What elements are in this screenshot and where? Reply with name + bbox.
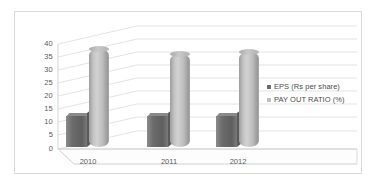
bar-front-face (216, 116, 237, 147)
legend-item-payout[interactable]: PAY OUT RATIO (%) (267, 93, 363, 106)
bar-eps-2012[interactable] (216, 116, 237, 147)
y-tick-35: 35 (33, 52, 53, 61)
bar-eps-2010[interactable] (66, 116, 87, 147)
y-tick-30: 30 (33, 65, 53, 74)
cylinder-top-cap (89, 46, 109, 52)
y-tick-5: 5 (33, 130, 53, 139)
x-tick-2012: 2012 (213, 157, 263, 166)
bar-front-face (66, 116, 87, 147)
cylinder-top-cap (239, 49, 259, 55)
legend-label-payout: PAY OUT RATIO (%) (274, 95, 345, 104)
legend-swatch-eps-icon (267, 85, 271, 89)
cylinder-top-cap (170, 51, 190, 57)
plot-area: 40 35 30 25 20 15 10 5 0 (15, 12, 363, 175)
y-tick-10: 10 (33, 117, 53, 126)
y-tick-15: 15 (33, 104, 53, 113)
cylinder-body (239, 52, 259, 147)
bar-payout-2010[interactable] (89, 49, 109, 147)
bar-eps-2011[interactable] (147, 116, 168, 147)
legend-label-eps: EPS (Rs per share) (274, 82, 340, 91)
bar-payout-2012[interactable] (239, 52, 259, 147)
cylinder-body (89, 49, 109, 147)
cylinder-body (170, 54, 190, 147)
x-tick-2011: 2011 (144, 157, 194, 166)
y-tick-20: 20 (33, 91, 53, 100)
chart-legend: EPS (Rs per share) PAY OUT RATIO (%) (267, 80, 363, 106)
y-tick-0: 0 (33, 144, 53, 153)
chart-container: 40 35 30 25 20 15 10 5 0 (14, 11, 362, 174)
y-tick-40: 40 (33, 39, 53, 48)
x-tick-2010: 2010 (63, 157, 113, 166)
y-tick-25: 25 (33, 78, 53, 87)
bar-payout-2011[interactable] (170, 54, 190, 147)
legend-swatch-payout-icon (267, 98, 271, 102)
bar-front-face (147, 116, 168, 147)
legend-item-eps[interactable]: EPS (Rs per share) (267, 80, 363, 93)
